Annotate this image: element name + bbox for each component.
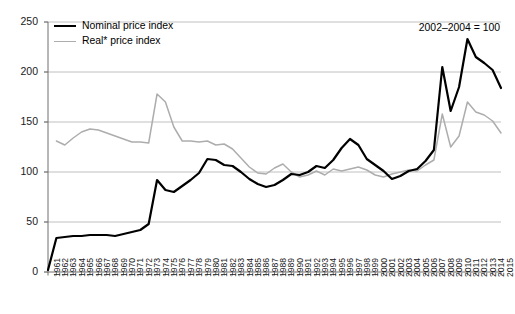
base-period-annotation: 2002–2004 = 100 [419, 22, 500, 33]
legend-item-nominal: Nominal price index [54, 19, 173, 33]
legend-item-real: Real* price index [54, 34, 173, 48]
nominal-line-swatch [54, 25, 76, 27]
legend-label-real: Real* price index [82, 35, 161, 47]
chart-legend: Nominal price index Real* price index [54, 19, 173, 49]
real-line-swatch [54, 41, 76, 42]
x-axis-tick-label: 2015 [505, 258, 515, 277]
legend-label-nominal: Nominal price index [82, 20, 173, 32]
